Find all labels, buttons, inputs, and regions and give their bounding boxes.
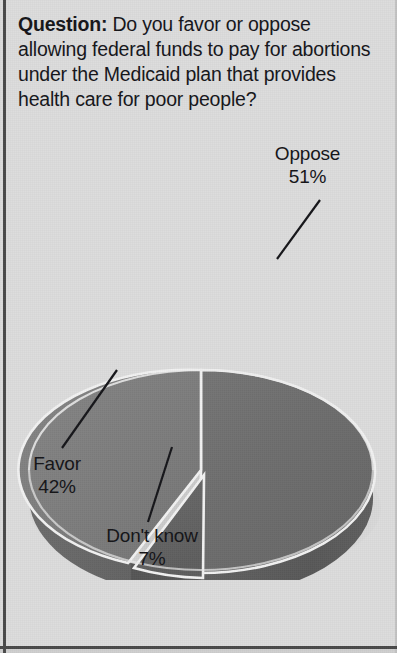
question-label: Question: [18, 13, 107, 35]
pie-label-oppose: Oppose 51% [245, 142, 370, 188]
pie-label-oppose-value: 51% [245, 165, 370, 188]
question-text-block: Question: Do you favor or oppose allowin… [18, 12, 380, 112]
poll-pie-chart-figure: Question: Do you favor or oppose allowin… [0, 0, 397, 653]
frame-border-left [3, 0, 6, 653]
leader-line-oppose [277, 200, 320, 259]
pie-label-favor: Favor 42% [2, 452, 112, 498]
pie-label-dont-know: Don't know 7% [72, 524, 232, 570]
pie-chart-svg [0, 130, 397, 580]
frame-border-bottom [0, 646, 397, 649]
pie-label-dont-know-name: Don't know [72, 524, 232, 547]
pie-label-oppose-name: Oppose [245, 142, 370, 165]
pie-chart [0, 130, 397, 580]
pie-label-favor-value: 42% [2, 475, 112, 498]
pie-label-dont-know-value: 7% [72, 547, 232, 570]
pie-label-favor-name: Favor [2, 452, 112, 475]
frame-bottom-pad [0, 649, 397, 653]
